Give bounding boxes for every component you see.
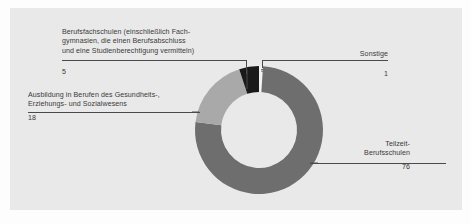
chart-figure: Berufsfachschulen (einschließlich Fach- … (0, 0, 471, 224)
callout-label-ausbildung: Ausbildung in Berufen des Gesundheits-, … (28, 91, 192, 110)
callout-label-berufsfachschulen: Berufsfachschulen (einschließlich Fach- … (62, 28, 248, 56)
callout-label-teilzeit: Teilzeit- Berufsschulen (310, 140, 410, 159)
callout-value-teilzeit: 76 (310, 163, 410, 172)
callout-value-sonstige: 1 (290, 70, 388, 79)
callout-value-berufsfachschulen: 5 (62, 68, 248, 77)
callout-teilzeit: Teilzeit- Berufsschulen 76 (310, 140, 410, 172)
callout-berufsfachschulen: Berufsfachschulen (einschließlich Fach- … (62, 28, 248, 78)
callout-sonstige: Sonstige 1 (290, 50, 388, 80)
callout-ausbildung: Ausbildung in Berufen des Gesundheits-, … (28, 91, 192, 123)
callout-label-sonstige: Sonstige (290, 50, 388, 59)
callout-value-ausbildung: 18 (28, 114, 192, 123)
